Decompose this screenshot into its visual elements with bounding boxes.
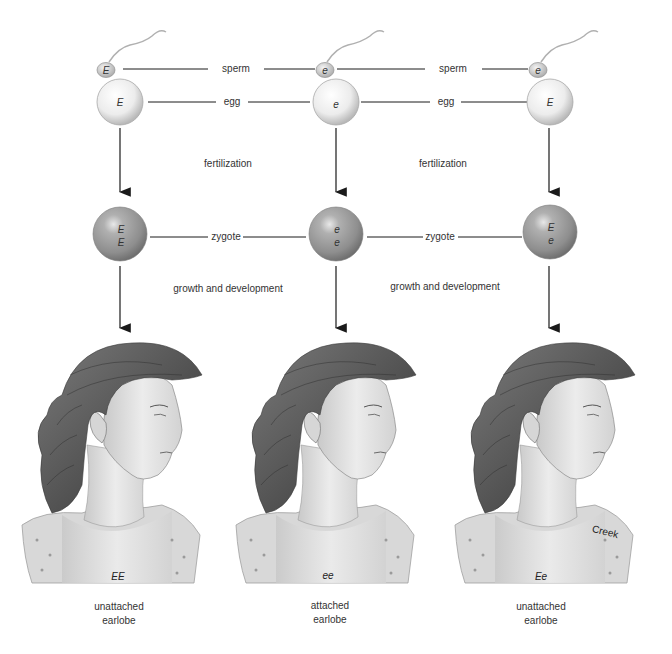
zygote-allele-3a: E bbox=[548, 222, 555, 233]
egg-allele-3: E bbox=[547, 97, 554, 108]
earlobe-inheritance-diagram: sperm sperm egg egg fertilization fertil… bbox=[0, 0, 672, 654]
phenotype-line1: unattached bbox=[69, 600, 169, 614]
sperm-label-1: sperm bbox=[220, 63, 252, 75]
genotype-label-1: EE bbox=[111, 571, 124, 582]
zygote-allele-1b: E bbox=[118, 237, 125, 248]
fertilization-label-2: fertilization bbox=[419, 158, 467, 169]
growth-label-1: growth and development bbox=[173, 283, 283, 294]
portrait-ee-dominant bbox=[22, 343, 202, 583]
phenotype-caption-3: unattached earlobe bbox=[491, 600, 591, 628]
growth-label-2: growth and development bbox=[390, 281, 500, 292]
phenotype-caption-2: attached earlobe bbox=[280, 599, 380, 627]
fertilization-label-1: fertilization bbox=[204, 158, 252, 169]
phenotype-line2: earlobe bbox=[280, 613, 380, 627]
zygote-allele-2a: e bbox=[334, 224, 340, 235]
zygote-allele-1a: E bbox=[118, 224, 125, 235]
zygote-label-1: zygote bbox=[209, 231, 242, 243]
phenotype-line2: earlobe bbox=[69, 614, 169, 628]
portrait-ee-heterozygous bbox=[455, 343, 635, 583]
zygote-label-2: zygote bbox=[423, 231, 456, 243]
egg-allele-2: e bbox=[333, 99, 339, 110]
phenotype-line1: attached bbox=[280, 599, 380, 613]
sperm-allele-1: E bbox=[103, 65, 110, 76]
phenotype-caption-1: unattached earlobe bbox=[69, 600, 169, 628]
phenotype-line1: unattached bbox=[491, 600, 591, 614]
genotype-label-2: ee bbox=[322, 570, 333, 581]
egg-allele-1: E bbox=[117, 97, 124, 108]
sperm-allele-2: e bbox=[322, 65, 328, 76]
sperm-allele-3: e bbox=[535, 65, 541, 76]
sperm-label-2: sperm bbox=[437, 63, 469, 75]
egg-label-2: egg bbox=[436, 96, 457, 108]
phenotype-line2: earlobe bbox=[491, 614, 591, 628]
portrait-ee-recessive bbox=[236, 343, 416, 583]
genotype-label-3: Ee bbox=[535, 571, 547, 582]
zygote-allele-2b: e bbox=[334, 237, 340, 248]
egg-label-1: egg bbox=[222, 96, 243, 108]
zygote-allele-3b: e bbox=[548, 235, 554, 246]
